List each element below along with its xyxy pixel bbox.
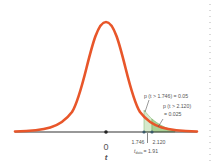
tdata-value: = 1.91 — [143, 148, 158, 154]
t-distribution-diagram: 0 t 1.746 2.120 tdata= 1.91 p (t > 1.746… — [0, 0, 218, 161]
label-p-1746: p (t > 1.746) = 0.05 — [144, 93, 188, 99]
tick-1746 — [142, 130, 145, 133]
tdata-sub: data — [135, 151, 142, 155]
label-crit-2120: 2.120 — [153, 139, 166, 145]
label-axis-t: t — [105, 153, 108, 161]
tick-2120 — [150, 130, 153, 133]
leader-p1 — [145, 100, 149, 112]
label-p-2120-line1: p (t > 2.120) — [163, 103, 191, 109]
label-zero: 0 — [103, 142, 108, 152]
label-p-2120-line2: = 0.025 — [164, 111, 182, 117]
label-crit-1746: 1.746 — [132, 139, 145, 145]
tick-zero — [104, 130, 108, 134]
label-tdata: tdata= 1.91 — [134, 148, 158, 155]
